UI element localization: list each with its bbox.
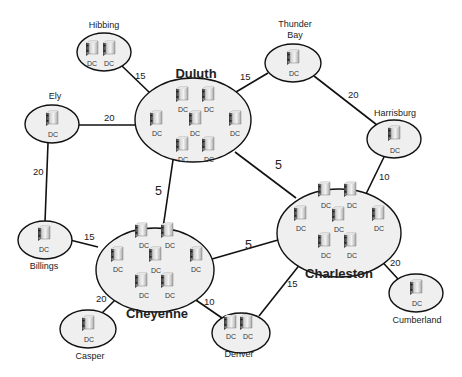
site-name-cumberland: Cumberland	[392, 315, 441, 325]
server-tower-icon	[344, 182, 356, 197]
server-tower-icon	[161, 273, 173, 288]
server-tower-icon	[150, 111, 162, 126]
server-tower-icon	[224, 315, 236, 330]
site-denver[interactable]: DC DC Denver	[212, 313, 270, 359]
cost-harrisburg-charleston: 10	[379, 171, 390, 182]
dc-label: DC	[347, 252, 357, 259]
site-name-cheyenne: Cheyenne	[126, 306, 188, 321]
cost-charleston-cumberland: 20	[390, 257, 401, 268]
site-hibbing[interactable]: DC DC Hibbing	[77, 20, 131, 71]
site-billings[interactable]: DC Billings	[18, 221, 72, 271]
server-tower-icon	[190, 247, 202, 262]
site-name-billings: Billings	[30, 261, 59, 271]
dc-label: DC	[165, 242, 175, 249]
server-tower-icon	[229, 111, 241, 126]
dc-label: DC	[178, 156, 188, 163]
cost-ely-duluth: 20	[104, 112, 115, 123]
server-tower-icon	[82, 316, 94, 331]
dc-label: DC	[152, 130, 162, 137]
dc-label: DC	[390, 147, 400, 154]
cost-billings-cheyenne: 15	[84, 231, 95, 242]
server-tower-icon	[287, 50, 299, 65]
dc-label: DC	[104, 60, 114, 67]
site-name-hibbing: Hibbing	[89, 20, 120, 30]
site-name-thunder-bay-line2: Bay	[287, 30, 303, 40]
server-tower-icon	[202, 87, 214, 102]
link-ely-billings	[45, 143, 48, 222]
site-name-harrisburg: Harrisburg	[374, 108, 416, 118]
dc-label: DC	[204, 106, 214, 113]
server-tower-icon	[149, 247, 161, 262]
server-tower-icon	[240, 315, 252, 330]
site-name-duluth: Duluth	[175, 66, 216, 81]
server-tower-icon	[189, 111, 201, 126]
site-topology-diagram: 15 20 15 20 20 5 5 10 15 5 20 10 15 20 D…	[0, 0, 462, 377]
cost-ely-billings: 20	[33, 166, 44, 177]
cost-thunderbay-harrisburg: 20	[348, 89, 359, 100]
site-ely[interactable]: DC Ely	[25, 91, 79, 143]
server-tower-icon	[332, 207, 344, 222]
site-name-denver: Denver	[224, 349, 253, 359]
dc-label: DC	[321, 252, 331, 259]
server-tower-icon	[294, 206, 306, 221]
server-tower-icon	[388, 126, 400, 141]
dc-label: DC	[204, 156, 214, 163]
site-cheyenne[interactable]: DC DC DC DC DC DC DC Cheyenne	[96, 223, 214, 321]
dc-label: DC	[151, 267, 161, 274]
dc-label: DC	[321, 202, 331, 209]
dc-label: DC	[87, 60, 97, 67]
dc-label: DC	[296, 225, 306, 232]
dc-label: DC	[412, 300, 422, 307]
site-casper[interactable]: DC Casper	[60, 310, 116, 361]
server-tower-icon	[38, 226, 50, 241]
server-tower-icon	[135, 273, 147, 288]
site-duluth[interactable]: DC DC DC DC DC DC DC Duluth	[135, 66, 251, 163]
dc-label: DC	[374, 225, 384, 232]
site-thunder-bay[interactable]: DC Thunder Bay	[265, 19, 321, 82]
link-duluth-cheyenne	[163, 160, 173, 228]
server-tower-icon	[410, 280, 422, 295]
server-tower-icon	[318, 182, 330, 197]
dc-label: DC	[113, 266, 123, 273]
site-name-thunder-bay-line1: Thunder	[278, 19, 312, 29]
server-tower-icon	[86, 41, 98, 56]
server-tower-icon	[318, 233, 330, 248]
cost-duluth-cheyenne: 5	[155, 184, 162, 198]
site-harrisburg[interactable]: DC Harrisburg	[367, 108, 421, 158]
cost-duluth-thunderbay: 15	[240, 71, 251, 82]
dc-label: DC	[226, 333, 236, 340]
cost-hibbing-duluth: 15	[135, 70, 146, 81]
cost-charleston-denver: 15	[287, 278, 298, 289]
dc-label: DC	[289, 70, 299, 77]
server-tower-icon	[135, 223, 147, 238]
site-name-ely: Ely	[49, 91, 62, 101]
server-tower-icon	[344, 233, 356, 248]
dc-label: DC	[347, 202, 357, 209]
dc-label: DC	[139, 242, 149, 249]
site-name-casper: Casper	[75, 351, 104, 361]
link-thunderbay-harrisburg	[314, 76, 377, 125]
dc-label: DC	[178, 106, 188, 113]
cost-duluth-charleston: 5	[275, 158, 282, 172]
site-cumberland[interactable]: DC Cumberland	[389, 274, 443, 325]
server-tower-icon	[372, 206, 384, 221]
site-name-charleston: Charleston	[305, 266, 373, 281]
dc-label: DC	[139, 292, 149, 299]
server-tower-icon	[176, 137, 188, 152]
server-tower-icon	[46, 111, 58, 126]
server-tower-icon	[111, 247, 123, 262]
cost-cheyenne-charleston: 5	[245, 238, 252, 252]
dc-label: DC	[191, 266, 201, 273]
dc-label: DC	[190, 130, 200, 137]
dc-label: DC	[230, 130, 240, 137]
server-tower-icon	[176, 87, 188, 102]
server-tower-icon	[103, 41, 115, 56]
dc-label: DC	[165, 292, 175, 299]
dc-label: DC	[84, 336, 94, 343]
server-tower-icon	[202, 137, 214, 152]
cost-cheyenne-denver: 10	[204, 296, 215, 307]
cost-cheyenne-casper: 20	[96, 293, 107, 304]
server-tower-icon	[161, 223, 173, 238]
dc-label: DC	[334, 226, 344, 233]
dc-label: DC	[39, 246, 49, 253]
